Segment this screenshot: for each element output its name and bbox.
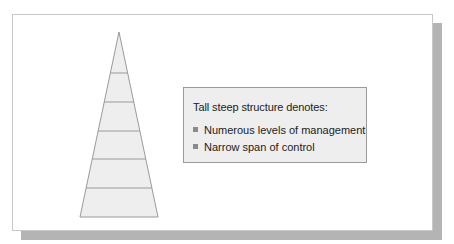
bullet-item: Narrow span of control <box>193 138 366 155</box>
description-heading: Tall steep structure denotes: <box>193 101 366 113</box>
square-bullet-icon <box>193 127 198 132</box>
description-box: Tall steep structure denotes: Numerous l… <box>183 87 367 163</box>
bullet-text: Numerous levels of management <box>204 124 365 136</box>
square-bullet-icon <box>193 144 198 149</box>
bullet-text: Narrow span of control <box>204 141 315 153</box>
bullet-item: Numerous levels of management <box>193 121 366 138</box>
pyramid-outline <box>80 32 158 217</box>
